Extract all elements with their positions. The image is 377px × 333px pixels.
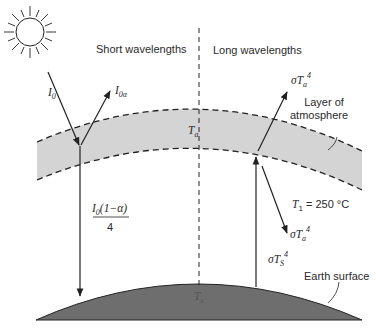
short-wavelengths-label: Short wavelengths [96, 43, 187, 55]
earth-surface-label: Earth surface [304, 270, 369, 282]
sun-icon [4, 6, 56, 58]
long-wavelengths-label: Long wavelengths [213, 44, 302, 56]
temperature-note: T1 = 250 °C [292, 198, 349, 213]
atmosphere-label-line2: atmosphere [290, 109, 348, 121]
absorbed-flux-denominator: 4 [107, 221, 113, 233]
earth-label-leader [328, 282, 339, 303]
atmosphere-downward-emission-arrow [262, 166, 287, 233]
reflected-flux-label: I0α [114, 84, 128, 99]
absorbed-flux-numerator: I0(1−α) [91, 202, 127, 217]
radiation-balance-diagram: Short wavelengths Long wavelengths I0 I0… [0, 0, 377, 333]
surface-flux-label: σTS4 [268, 250, 288, 268]
atmosphere-label-line1: Layer of [304, 96, 345, 108]
atmosphere-up-flux-label: σTa4 [291, 71, 311, 89]
atmosphere-down-flux-label: σTa4 [290, 225, 310, 243]
